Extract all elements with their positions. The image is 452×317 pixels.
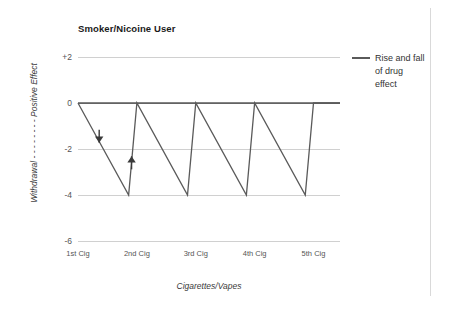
y-tick-label: -6 (64, 236, 72, 246)
y-tick-label: 0 (67, 98, 72, 108)
x-tick-label: 1st Cig (66, 249, 89, 258)
x-axis-title: Cigarettes/Vapes (78, 281, 340, 291)
y-tick-label: -4 (64, 190, 72, 200)
legend: Rise and fall of drug effect (352, 52, 426, 91)
plot-area (78, 57, 340, 241)
right-border-rule (430, 8, 431, 296)
y-axis-title: Withdrawal - - - - - - - - Positive Effe… (29, 33, 39, 233)
page-title: Smoker/Nicoine User (78, 23, 175, 34)
series-line (78, 103, 340, 195)
x-tick-label: 3rd Cig (184, 249, 208, 258)
legend-item-label: Rise and fall of drug effect (375, 52, 425, 91)
x-axis-ticks: 1st Cig2nd Cig3rd Cig4th Cig5th Cig (78, 249, 340, 261)
y-tick-label: -2 (64, 144, 72, 154)
rise-arrow (127, 156, 135, 169)
x-tick-label: 2nd Cig (124, 249, 150, 258)
y-tick-label: +2 (62, 52, 72, 62)
y-axis-ticks: +20-2-4-6 (50, 57, 72, 241)
chart-page: Smoker/Nicoine User Withdrawal - - - - -… (0, 0, 452, 317)
series-line-chart (74, 49, 350, 249)
legend-line-swatch (352, 57, 370, 59)
x-tick-label: 4th Cig (243, 249, 267, 258)
x-tick-label: 5th Cig (302, 249, 326, 258)
